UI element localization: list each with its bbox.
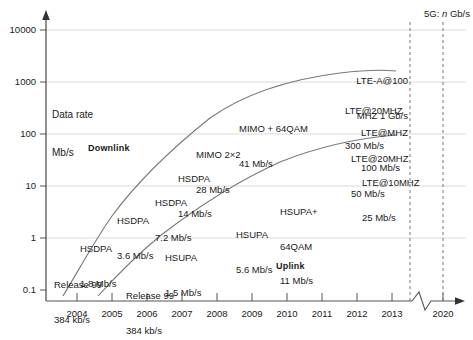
- xtick-label-2020: 2020: [421, 308, 465, 319]
- y-axis-title-line1: Data rate: [52, 109, 93, 122]
- annotation-5g-prefix: 5G:: [424, 8, 442, 19]
- annotation-hsupa-15: HSUPA 1.5 Mb/s: [165, 229, 201, 321]
- series-label-uplink: Uplink: [276, 261, 305, 273]
- annotation-hsupa56-line1: HSUPA: [236, 229, 272, 241]
- annotation-hsupa64-line2: 64QAM: [280, 241, 318, 253]
- y-axis-title-line2: Mb/s: [52, 147, 93, 160]
- annotation-5g: 5G: n Gb/s: [330, 8, 470, 20]
- ytick-label-0.1: 0.1: [0, 284, 36, 295]
- annotation-hsdpa18-line1: HSDPA: [80, 243, 116, 255]
- annotation-rel99-dl-line1: Release 99: [54, 279, 102, 291]
- annotation-mimo-64qam-41: MIMO + 64QAM 41 Mb/s: [239, 100, 308, 192]
- annotation-lte10mhz-25: LTE@10MHZ 25 Mb/s: [362, 154, 420, 246]
- annotation-5g-suffix: Gb/s: [447, 8, 470, 19]
- y-axis-title: Data rate Mb/s: [52, 84, 93, 184]
- annotation-rel99-ul-line2: 384 kb/s: [126, 325, 174, 337]
- annotation-mimo64-line1: MIMO + 64QAM: [239, 123, 308, 135]
- annotation-hsupa56-line2: 5.6 Mb/s: [236, 264, 272, 276]
- annotation-hsupa15-line2: 1.5 Mb/s: [165, 287, 201, 299]
- annotation-hsdpa72-line1: HSDPA: [155, 197, 191, 209]
- annotation-mimo64-line2: 41 Mb/s: [239, 158, 308, 170]
- ytick-label-10: 10: [0, 180, 36, 191]
- annotation-release99-downlink: Release 99 384 kb/s: [54, 256, 102, 340]
- annotation-hsupa-56: HSUPA 5.6 Mb/s: [236, 206, 272, 298]
- y-ticks: [40, 30, 46, 290]
- annotation-hsupa64-line1: HSUPA+: [280, 206, 318, 218]
- annotation-hsupa-plus-64qam-11: HSUPA+ 64QAM 11 Mb/s: [280, 183, 318, 310]
- annotation-rel99-dl-line2: 384 kb/s: [54, 314, 102, 326]
- annotation-hsdpa36-line2: 3.6 Mb/s: [117, 250, 153, 262]
- annotation-hsupa15-line1: HSUPA: [165, 252, 201, 264]
- annotation-lte10-25-line2: 25 Mb/s: [362, 212, 420, 224]
- x-axis-arrow: [455, 297, 465, 305]
- annotation-lte10-25-line1: LTE@10MHZ: [362, 177, 420, 189]
- ytick-label-100: 100: [0, 128, 36, 139]
- series-label-downlink: Downlink: [88, 143, 130, 155]
- data-rate-evolution-chart: 10000 1000 100 10 1 0.1 2004 2005 2006 2…: [0, 0, 473, 340]
- xtick-label-2013: 2013: [370, 308, 414, 319]
- ytick-label-1000: 1000: [0, 76, 36, 87]
- annotation-hsdpa36-line1: HSDPA: [117, 215, 153, 227]
- ytick-label-1: 1: [0, 232, 36, 243]
- y-axis-arrow: [42, 10, 50, 20]
- ytick-label-10000: 10000: [0, 24, 36, 35]
- annotation-hsupa64-line3: 11 Mb/s: [280, 275, 318, 287]
